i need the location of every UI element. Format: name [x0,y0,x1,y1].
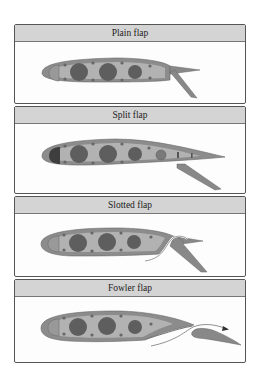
panel-title: Fowler flap [15,280,245,297]
panel-slotted-flap: Slotted flap [14,196,246,277]
airfoil-plain-flap-icon [15,42,245,104]
panel-title: Plain flap [15,25,245,42]
panel-title: Split flap [15,107,245,124]
airfoil-fowler-flap-icon [15,297,245,363]
airfoil-slotted-flap-icon [15,214,245,277]
panel-title: Slotted flap [15,197,245,214]
airfoil-split-flap-icon [15,124,245,194]
panel-plain-flap: Plain flap [14,24,246,104]
panel-fowler-flap: Fowler flap [14,279,246,363]
panel-split-flap: Split flap [14,106,246,194]
